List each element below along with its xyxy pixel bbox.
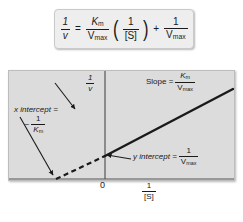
equation-vmax-denominator: Vmax — [86, 29, 110, 42]
equation-one-over-vmax-denominator: Vmax — [164, 28, 188, 41]
equation-close-paren: ) — [143, 20, 148, 39]
equation-row: 1 v = Km Vmax ( 1 [S] ) + 1 Vmax — [58, 17, 189, 41]
slope-annotation-fraction: Km Vmax — [175, 72, 195, 93]
regression-line-solid — [105, 89, 233, 156]
slope-annotation: Slope = Km Vmax — [146, 72, 197, 93]
equation-one-over-s-numerator: 1 — [126, 17, 136, 29]
y-intercept-annotation-text: y intercept = — [133, 153, 177, 161]
y-axis-label: 1 v — [84, 74, 96, 94]
equation-plus-sign: + — [153, 24, 159, 34]
x-intercept-annotation-sign: − — [25, 121, 30, 129]
y-intercept-annotation-numerator: 1 — [184, 147, 192, 156]
equation-box: 1 v = Km Vmax ( 1 [S] ) + 1 Vmax — [54, 9, 194, 49]
equation-one-over-s-denominator: [S] — [123, 29, 139, 42]
x-axis-label: 1 [S] — [140, 182, 158, 202]
equation-km-numerator: Km — [89, 17, 105, 29]
x-intercept-annotation-numerator: 1 — [34, 115, 42, 124]
equation-one-over-vmax-numerator: 1 — [171, 17, 181, 29]
regression-line-dashed-extrapolation — [56, 156, 105, 179]
slope-annotation-numerator: Km — [178, 72, 192, 82]
equation-one-over-vmax-fraction: 1 Vmax — [164, 17, 188, 41]
y-intercept-annotation-denominator: Vmax — [179, 156, 199, 167]
slope-annotation-text: Slope = — [146, 78, 173, 86]
x-axis-label-fraction: 1 [S] — [142, 182, 156, 202]
y-axis-label-fraction: 1 v — [86, 74, 94, 94]
equation-one-over-s-fraction: 1 [S] — [123, 17, 139, 41]
y-axis-label-numerator: 1 — [86, 74, 94, 83]
equation-lhs-denominator: v — [61, 29, 70, 42]
x-intercept-annotation-fraction: 1 Km — [31, 115, 45, 135]
origin-tick-label: 0 — [100, 181, 105, 190]
equation-km-over-vmax-fraction: Km Vmax — [86, 17, 110, 41]
equation-lhs-numerator: 1 — [60, 17, 70, 29]
y-intercept-leader-arrow — [107, 155, 131, 159]
equation-equals-sign: = — [75, 24, 81, 34]
x-intercept-annotation-denominator: Km — [31, 124, 45, 135]
y-intercept-annotation: y intercept = 1 Vmax — [133, 147, 200, 167]
slope-annotation-denominator: Vmax — [175, 82, 195, 93]
x-intercept-annotation: x intercept = − 1 Km — [14, 106, 58, 135]
y-axis-label-denominator: v — [86, 83, 94, 93]
x-intercept-annotation-value: − 1 Km — [25, 115, 48, 135]
equation-open-paren: ( — [113, 20, 118, 39]
x-axis-label-numerator: 1 — [145, 182, 153, 191]
y-intercept-annotation-fraction: 1 Vmax — [179, 147, 199, 167]
x-axis-label-denominator: [S] — [142, 191, 156, 201]
equation-lhs-fraction: 1 v — [60, 17, 70, 41]
slope-leader-arrow — [55, 83, 75, 109]
